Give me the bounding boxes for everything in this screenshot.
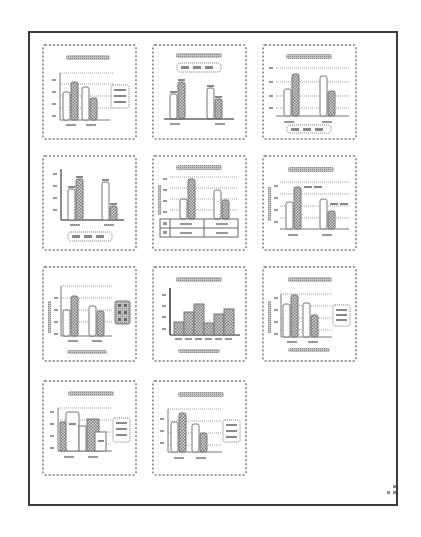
layout-6-preview-icon — [264, 157, 355, 249]
layout-option-5[interactable]: Layout 5 — [152, 155, 247, 251]
layout-option-9[interactable]: Layout 9 — [262, 266, 357, 362]
layout-option-1[interactable]: Layout 1 — [42, 44, 137, 140]
resize-grip-icon[interactable] — [387, 485, 399, 497]
layout-2-preview-icon — [154, 46, 245, 138]
layout-option-6[interactable]: Layout 6 — [262, 155, 357, 251]
layout-8-preview-icon — [154, 268, 245, 360]
layout-option-7[interactable]: Layout 7 — [42, 266, 137, 362]
layout-9-preview-icon — [264, 268, 355, 360]
layout-7-preview-icon — [44, 268, 135, 360]
layout-option-11[interactable]: Layout 11 — [152, 380, 247, 476]
layout-option-4[interactable]: Layout 4 — [42, 155, 137, 251]
layout-5-preview-icon — [154, 157, 245, 249]
chart-layout-gallery: Layout 1 Layout 2 — [28, 31, 398, 506]
layout-10-preview-icon — [44, 382, 135, 474]
layout-11-preview-icon — [154, 382, 245, 474]
layout-option-8[interactable]: Layout 8 — [152, 266, 247, 362]
layout-option-2[interactable]: Layout 2 — [152, 44, 247, 140]
layout-4-preview-icon — [44, 157, 135, 249]
layout-option-3[interactable]: Layout 3 — [262, 44, 357, 140]
layout-3-preview-icon — [264, 46, 355, 138]
layout-option-10[interactable]: Layout 10 — [42, 380, 137, 476]
layout-1-preview-icon — [44, 46, 135, 138]
